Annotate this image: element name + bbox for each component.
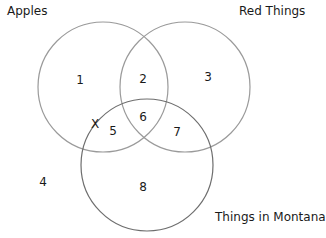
set-label-montana: Things in Montana xyxy=(215,211,326,223)
region-number: 6 xyxy=(139,111,147,123)
x-marker: X xyxy=(91,118,99,130)
region-number: 7 xyxy=(173,126,181,138)
region-number: 2 xyxy=(139,73,147,85)
region-number: 5 xyxy=(109,125,117,137)
montana-circle xyxy=(81,99,213,231)
set-label-red-things: Red Things xyxy=(239,5,305,17)
region-number: 8 xyxy=(139,181,147,193)
apples-circle xyxy=(38,22,168,152)
red-things-circle xyxy=(120,22,250,152)
region-number: 1 xyxy=(76,74,84,86)
region-number: 4 xyxy=(39,176,47,188)
set-label-apples: Apples xyxy=(7,5,47,17)
region-number: 3 xyxy=(204,71,212,83)
